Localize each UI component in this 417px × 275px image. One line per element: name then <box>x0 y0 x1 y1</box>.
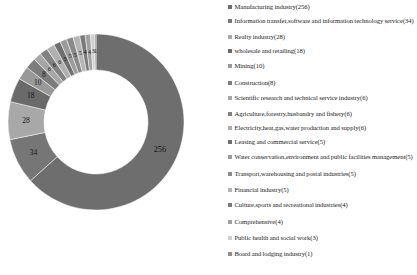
legend-swatch-icon <box>228 96 232 100</box>
donut-slice-value-label: 6 <box>58 58 61 65</box>
legend-swatch-icon <box>228 35 232 39</box>
legend-swatch-icon <box>228 19 232 23</box>
legend-swatch-icon <box>228 203 232 207</box>
legend-swatch-icon <box>228 64 232 68</box>
donut-slice-value-label: 4 <box>88 48 91 55</box>
donut-slice-value-label: 8 <box>42 70 46 79</box>
donut-slice-value-label: 4 <box>84 48 87 55</box>
donut-slice-value-label: 5 <box>74 51 77 58</box>
legend-swatch-icon <box>228 126 232 130</box>
legend-swatch-icon <box>228 220 232 224</box>
legend-swatch-icon <box>228 188 232 192</box>
donut-slices-group <box>8 34 184 210</box>
legend-item-label: wholesale and retailing(18) <box>235 47 417 55</box>
legend-item-label: Electricity,heat,gas,water production an… <box>235 124 417 132</box>
legend-item-label: Water conservation,environment and publi… <box>235 153 417 161</box>
legend-item-label: Mining(10) <box>235 62 417 70</box>
legend-item[interactable]: wholesale and retailing(18) <box>228 47 417 55</box>
donut-slice-value-label: 1 <box>94 47 97 54</box>
legend-item-label: Construction(8) <box>235 79 417 87</box>
donut-slice-value-label: 28 <box>22 116 30 125</box>
legend-item[interactable]: Agriculture,forestry,husbandry and fishe… <box>228 110 417 118</box>
legend-item-label: Public health and social work(3) <box>235 234 417 242</box>
legend-swatch-icon <box>228 5 232 9</box>
legend-item-label: Board and lodging industry(1) <box>235 250 417 258</box>
legend-item-label: Agriculture,forestry,husbandry and fishe… <box>235 110 417 118</box>
legend-swatch-icon <box>228 155 232 159</box>
donut-chart-figure: 25634281810866655554431 Manufacturing in… <box>0 0 417 275</box>
legend-item[interactable]: Water conservation,environment and publi… <box>228 153 417 161</box>
legend-item[interactable]: Public health and social work(3) <box>228 234 417 242</box>
donut-chart-svg: 25634281810866655554431 <box>0 0 224 275</box>
legend-item[interactable]: Financial industry(5) <box>228 186 417 194</box>
donut-slice-value-label: 5 <box>68 52 71 59</box>
legend-item[interactable]: Information transfer,software and inform… <box>228 17 417 25</box>
legend-item[interactable]: Realty industry(28) <box>228 33 417 41</box>
legend-item[interactable]: Manufacturing industry(256) <box>228 3 417 11</box>
legend-item[interactable]: Construction(8) <box>228 79 417 87</box>
legend-swatch-icon <box>228 140 232 144</box>
donut-slice-value-label: 10 <box>34 78 42 87</box>
legend-swatch-icon <box>228 112 232 116</box>
legend-item[interactable]: Culture,sports and recreational industri… <box>228 201 417 209</box>
legend-item[interactable]: Transport,warehousing and postal industr… <box>228 170 417 178</box>
donut-slice-value-label: 5 <box>79 49 82 56</box>
legend-swatch-icon <box>228 49 232 53</box>
donut-chart-plot-area: 25634281810866655554431 <box>0 0 224 275</box>
legend-item[interactable]: Electricity,heat,gas,water production an… <box>228 124 417 132</box>
donut-slice-value-label: 18 <box>27 91 35 100</box>
donut-slice-value-label: 6 <box>53 61 56 68</box>
legend-item-label: Comprehensive(4) <box>235 218 417 226</box>
legend-item[interactable]: Leasing and commercial service(5) <box>228 138 417 146</box>
donut-slice-value-label: 256 <box>154 145 166 154</box>
donut-slice-value-label: 34 <box>30 148 38 157</box>
legend-item[interactable]: Comprehensive(4) <box>228 218 417 226</box>
legend-item-label: Manufacturing industry(256) <box>235 3 417 11</box>
legend-item-label: Realty industry(28) <box>235 33 417 41</box>
legend-swatch-icon <box>228 252 232 256</box>
donut-slice-value-label: 5 <box>63 55 66 62</box>
chart-legend: Manufacturing industry(256)Information t… <box>228 0 417 275</box>
legend-item-label: Scientific research and technical servic… <box>235 94 417 102</box>
legend-item[interactable]: Board and lodging industry(1) <box>228 250 417 258</box>
donut-slice-value-label: 6 <box>48 65 51 72</box>
legend-swatch-icon <box>228 172 232 176</box>
legend-item-label: Information transfer,software and inform… <box>235 17 417 25</box>
legend-item[interactable]: Scientific research and technical servic… <box>228 94 417 102</box>
legend-swatch-icon <box>228 81 232 85</box>
legend-item-label: Culture,sports and recreational industri… <box>235 201 417 209</box>
legend-item-label: Leasing and commercial service(5) <box>235 138 417 146</box>
legend-item[interactable]: Mining(10) <box>228 62 417 70</box>
legend-item-label: Financial industry(5) <box>235 186 417 194</box>
legend-item-label: Transport,warehousing and postal industr… <box>235 170 417 178</box>
legend-swatch-icon <box>228 236 232 240</box>
